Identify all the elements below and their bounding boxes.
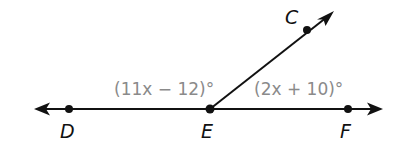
geometry-diagram: C D E F (11x − 12)° (2x + 10)° [0, 0, 402, 149]
point-label-f: F [340, 120, 352, 142]
point-label-c: C [285, 6, 299, 28]
point-e-dot [206, 105, 215, 114]
point-c-dot [303, 26, 311, 34]
point-d-dot [65, 105, 73, 113]
point-f-dot [344, 105, 352, 113]
angle-label-dec: (11x − 12)° [114, 79, 214, 99]
point-label-d: D [60, 120, 75, 142]
angle-label-cef: (2x + 10)° [254, 79, 343, 99]
point-label-e: E [201, 120, 213, 142]
